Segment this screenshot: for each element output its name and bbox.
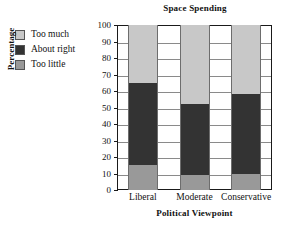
- y-axis-ticklabel: 40: [102, 120, 111, 129]
- legend-item-too-much: Too much: [15, 27, 93, 42]
- legend-swatch-too-much: [15, 30, 25, 40]
- bar-segment-about-right: [180, 104, 210, 175]
- x-axis-ticklabel: Liberal: [129, 192, 156, 203]
- x-axis-ticklabel: Conservative: [221, 192, 271, 203]
- legend-label-about-right: About right: [31, 44, 75, 55]
- bar-segment-too-much: [128, 25, 158, 83]
- bar-segment-about-right: [231, 94, 261, 173]
- y-axis-ticklabel: 80: [102, 54, 111, 63]
- y-axis-ticklabels: 0102030405060708090100: [90, 25, 114, 190]
- y-axis-ticklabel: 70: [102, 70, 111, 79]
- y-axis-ticklabel: 100: [98, 21, 112, 30]
- y-axis-tickmark: [114, 190, 118, 191]
- y-axis-ticklabel: 30: [102, 136, 111, 145]
- chart-legend: Too much About right Too little: [15, 27, 93, 72]
- x-axis-ticklabel: Moderate: [176, 192, 212, 203]
- stacked-bar: [128, 25, 158, 190]
- legend-item-too-little: Too little: [15, 57, 93, 72]
- bar-segment-too-little: [128, 165, 158, 190]
- bar-segment-about-right: [128, 83, 158, 166]
- y-axis-ticklabel: 60: [102, 87, 111, 96]
- legend-label-too-little: Too little: [31, 59, 65, 70]
- bar-segment-too-little: [231, 174, 261, 191]
- legend-swatch-too-little: [15, 60, 25, 70]
- bars-layer: [117, 25, 272, 190]
- legend-swatch-about-right: [15, 45, 25, 55]
- bar-segment-too-little: [180, 175, 210, 190]
- y-axis-ticklabel: 10: [102, 169, 111, 178]
- y-axis-ticklabel: 50: [102, 103, 111, 112]
- stacked-bar: [231, 25, 261, 190]
- y-axis-ticklabel: 90: [102, 37, 111, 46]
- bar-segment-too-much: [180, 25, 210, 104]
- y-axis-ticklabel: 0: [107, 186, 112, 195]
- y-axis-ticklabel: 20: [102, 153, 111, 162]
- x-axis-ticklabels: LiberalModerateConservative: [117, 192, 272, 206]
- y-axis-title: Percentage: [6, 4, 16, 94]
- legend-item-about-right: About right: [15, 42, 93, 57]
- stacked-bar: [180, 25, 210, 190]
- legend-label-too-much: Too much: [31, 29, 69, 40]
- x-axis-title: Political Viewpoint: [117, 208, 272, 219]
- chart-title: Space Spending: [117, 3, 273, 14]
- chart-figure: Space Spending Too much About right Too …: [0, 0, 301, 239]
- bar-segment-too-much: [231, 25, 261, 94]
